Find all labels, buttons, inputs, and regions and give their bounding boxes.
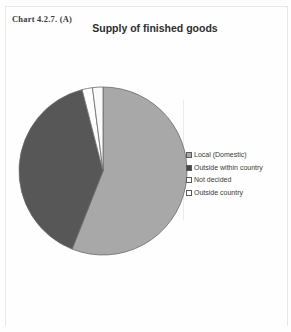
chart-legend: Local (Domestic) Outside within country … (186, 149, 286, 199)
legend-item-local-domestic[interactable]: Local (Domestic) (186, 149, 286, 162)
legend-swatch-not-decided (186, 177, 192, 183)
legend-item-not-decided[interactable]: Not decided (186, 174, 286, 187)
legend-label-outside-within-country: Outside within country (194, 164, 263, 172)
pie-chart (18, 85, 188, 257)
legend-item-outside-country[interactable]: Outside country (186, 187, 286, 200)
legend-label-local-domestic: Local (Domestic) (194, 151, 247, 159)
legend-swatch-local-domestic (186, 152, 192, 158)
legend-label-not-decided: Not decided (194, 176, 231, 184)
legend-swatch-outside-country (186, 190, 192, 196)
chart-page: Chart 4.2.7. (A) Supply of finished good… (0, 0, 291, 332)
legend-label-outside-country: Outside country (194, 189, 243, 197)
legend-swatch-outside-within-country (186, 165, 192, 171)
pie-slices (19, 87, 187, 255)
legend-item-outside-within-country[interactable]: Outside within country (186, 162, 286, 175)
